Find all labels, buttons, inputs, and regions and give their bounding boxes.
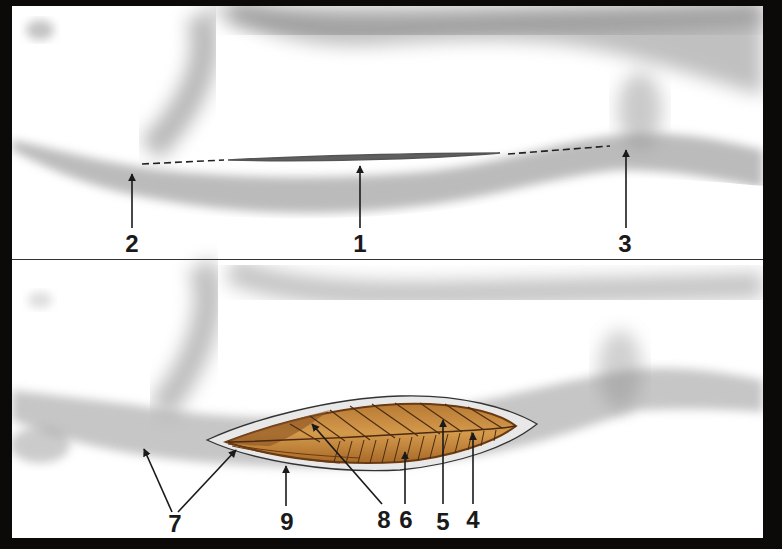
label-9: 9 — [280, 510, 293, 534]
limb-illustration — [12, 6, 763, 538]
illustration-panel — [12, 6, 763, 538]
label-5: 5 — [436, 510, 449, 534]
incision-extension-proximal — [142, 160, 224, 164]
top-limb-shading — [12, 6, 763, 258]
label-1: 1 — [353, 232, 366, 256]
label-2: 2 — [125, 232, 138, 256]
label-7: 7 — [168, 512, 181, 536]
label-6: 6 — [399, 508, 412, 532]
label-8: 8 — [377, 508, 390, 532]
panel-divider — [12, 259, 763, 260]
label-3: 3 — [618, 232, 631, 256]
label-4: 4 — [466, 508, 479, 532]
